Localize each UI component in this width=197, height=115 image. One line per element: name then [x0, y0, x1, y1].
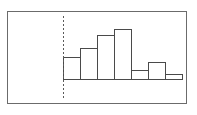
histogram-bar: [64, 58, 81, 80]
bars-group: [64, 30, 183, 80]
histogram-bar: [98, 36, 115, 80]
histogram-bar: [115, 30, 132, 80]
histogram-bar: [81, 49, 98, 80]
histogram-figure: [0, 0, 197, 115]
histogram-bar: [166, 75, 183, 80]
histogram-bar: [132, 71, 149, 80]
histogram-chart: [0, 0, 197, 115]
histogram-bar: [149, 63, 166, 80]
